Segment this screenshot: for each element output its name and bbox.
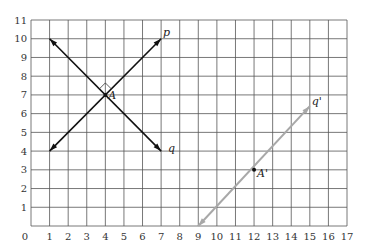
x-tick-label: 14	[285, 231, 298, 242]
x-tick-label: 16	[322, 231, 335, 242]
point-label-A: A	[107, 89, 116, 102]
y-tick-label: 4	[21, 146, 27, 157]
y-tick-label: 2	[21, 183, 27, 194]
x-tick-label: 13	[266, 231, 279, 242]
y-tick-label: 9	[21, 52, 27, 63]
line-label-q-prime: q'	[312, 95, 322, 108]
x-tick-label: 17	[341, 231, 354, 242]
line-label-q: q	[168, 142, 175, 155]
x-tick-label: 3	[84, 231, 90, 242]
line-label-p: p	[163, 26, 170, 39]
point-label-A-prime: A'	[256, 167, 268, 180]
x-tick-label: 15	[303, 231, 316, 242]
y-tick-label: 7	[21, 89, 27, 100]
x-tick-label: 7	[158, 231, 164, 242]
x-tick-label: 5	[121, 231, 127, 242]
x-tick-label: 1	[46, 231, 52, 242]
x-tick-label: 6	[139, 231, 145, 242]
y-tick-label: 8	[21, 71, 27, 82]
axis-tick-labels: 012345678910111213141516171234567891011	[14, 15, 353, 243]
y-tick-label: 1	[21, 202, 27, 213]
x-tick-label: 11	[229, 231, 242, 242]
x-tick-label: 9	[195, 231, 201, 242]
x-tick-label: 10	[211, 231, 224, 242]
x-tick-label: 2	[65, 231, 71, 242]
coordinate-grid-diagram: 012345678910111213141516171234567891011 …	[0, 0, 369, 246]
y-tick-label: 11	[14, 15, 27, 26]
y-tick-label: 3	[21, 164, 27, 175]
y-tick-label: 6	[21, 108, 27, 119]
x-tick-label: 12	[248, 231, 261, 242]
lines: pqq'	[50, 26, 322, 226]
x-tick-label: 0	[22, 231, 28, 242]
points: AA'	[99, 83, 268, 180]
point-A	[103, 93, 107, 97]
point-A-prime	[252, 168, 256, 172]
x-tick-label: 4	[102, 231, 108, 242]
y-tick-label: 10	[14, 33, 27, 44]
y-tick-label: 5	[21, 127, 27, 138]
x-tick-label: 8	[177, 231, 183, 242]
